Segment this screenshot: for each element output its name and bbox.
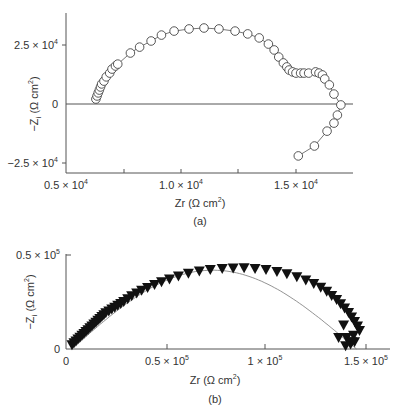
data-point — [260, 265, 271, 275]
data-point — [250, 264, 261, 274]
data-point — [271, 267, 282, 277]
data-point — [231, 27, 240, 36]
data-point — [217, 264, 228, 274]
ylabel-a: −Zi (Ω cm2) — [27, 76, 43, 131]
data-point — [310, 142, 319, 151]
data-point — [228, 264, 239, 274]
data-point — [323, 127, 332, 136]
xtick-a-3: 1.5 × 104 — [274, 178, 318, 191]
series-b-triangles — [66, 263, 365, 351]
xtick-b-3: 1.5 × 105 — [344, 354, 388, 367]
data-point — [239, 263, 250, 273]
data-point — [126, 49, 135, 58]
xtick-b-1: 0.5 × 105 — [145, 354, 189, 367]
series-a-circles — [92, 24, 346, 161]
data-point — [255, 34, 264, 43]
data-point — [330, 90, 339, 99]
data-point — [147, 37, 156, 46]
data-point — [294, 152, 303, 161]
data-point — [333, 111, 342, 120]
figure: 2.5 × 104 0 −2.5 × 104 0.5 × 104 1.0 × 1… — [0, 0, 401, 414]
xtick-a-1: 0.5 × 104 — [44, 178, 88, 191]
data-point — [338, 321, 349, 331]
data-point — [173, 272, 184, 282]
ytick-a-zero: 0 — [52, 98, 58, 110]
xtick-b-2: 1 × 105 — [248, 354, 283, 367]
data-point — [157, 31, 166, 40]
xtick-a-2: 1.0 × 104 — [159, 178, 203, 191]
data-point — [200, 24, 209, 33]
data-point — [281, 269, 292, 279]
panel-label-a: (a) — [193, 215, 206, 227]
data-point — [325, 81, 334, 90]
data-point — [337, 101, 346, 110]
panel-label-b: (b) — [208, 393, 221, 405]
data-point — [330, 119, 339, 128]
ylabel-b: −Zi (Ω cm2) — [23, 274, 39, 329]
data-point — [113, 60, 122, 69]
data-point — [243, 30, 252, 39]
xlabel-a: Zr (Ω cm2) — [175, 196, 226, 209]
xtick-b-0: 0 — [63, 355, 69, 367]
ytick-b-top: 0.5 × 105 — [16, 248, 60, 261]
data-point — [185, 25, 194, 34]
data-point — [170, 27, 179, 36]
xlabel-b: Zr (Ω cm2) — [190, 373, 241, 386]
panel-a: 2.5 × 104 0 −2.5 × 104 0.5 × 104 1.0 × 1… — [8, 13, 353, 227]
ytick-b-zero: 0 — [54, 343, 60, 355]
ytick-a-top: 2.5 × 104 — [14, 38, 58, 51]
data-point — [291, 272, 302, 282]
data-point — [135, 43, 144, 52]
ytick-a-bottom: −2.5 × 104 — [8, 156, 59, 169]
panel-b: 0.5 × 105 0 0 0.5 × 105 1 × 105 1.5 × 10… — [16, 248, 390, 405]
data-point — [215, 25, 224, 34]
